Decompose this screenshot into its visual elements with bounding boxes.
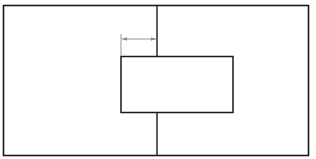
inner-rectangle	[121, 57, 233, 113]
dimension-arrow-left-icon	[122, 37, 127, 40]
dimension-arrow-right-icon	[151, 37, 156, 40]
diagram-canvas	[0, 0, 316, 159]
